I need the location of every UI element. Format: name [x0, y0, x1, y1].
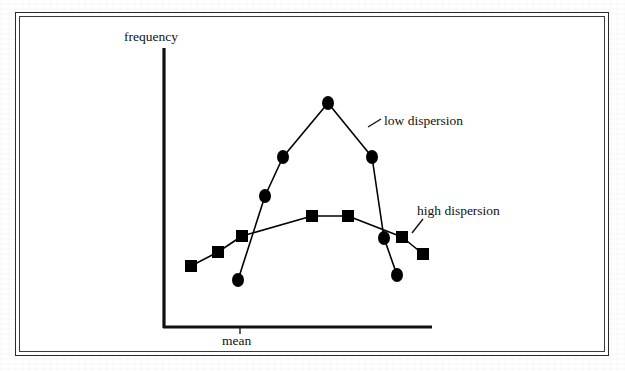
data-point-square — [236, 230, 248, 242]
data-point-square — [342, 210, 354, 222]
data-point-circle — [259, 189, 271, 203]
annotation-leader-lines — [368, 119, 423, 233]
data-point-circle — [366, 150, 378, 164]
data-point-circle — [232, 273, 244, 287]
annotation-high-dispersion: high dispersion — [417, 203, 500, 219]
plot-area — [0, 0, 625, 371]
data-point-square — [417, 248, 429, 260]
data-point-square — [212, 246, 224, 258]
leader-line-high-dispersion — [412, 219, 423, 233]
leader-line-low-dispersion — [368, 119, 381, 127]
x-axis-label: mean — [222, 333, 251, 349]
data-point-square — [396, 231, 408, 243]
y-axis-label: frequency — [124, 29, 178, 45]
series-low-dispersion — [232, 96, 403, 287]
figure-page: the dispersion of the valuesof the distr… — [0, 0, 625, 371]
data-point-square — [306, 210, 318, 222]
data-point-square — [185, 260, 197, 272]
data-point-circle — [322, 96, 334, 110]
data-point-circle — [277, 150, 289, 164]
data-point-circle — [391, 268, 403, 282]
annotation-low-dispersion: low dispersion — [384, 113, 463, 129]
data-point-circle — [378, 231, 390, 245]
